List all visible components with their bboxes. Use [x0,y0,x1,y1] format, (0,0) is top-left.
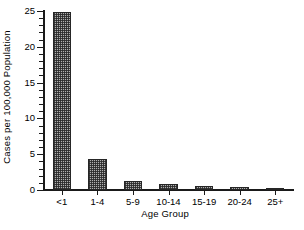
x-tick [133,191,134,195]
y-tick-label: 0 [13,185,35,194]
y-tick-label: 10 [13,113,35,122]
x-tick [275,191,276,195]
y-tick-label: 20 [13,42,35,51]
y-tick-label: 25 [13,6,35,15]
bar [88,159,106,191]
x-tick [97,191,98,195]
x-axis-title: Age Group [40,208,290,219]
x-tick [204,191,205,195]
bars-container [44,11,293,190]
bar [195,186,213,190]
bar [53,12,71,190]
y-axis-title: Cases per 100,000 Population [0,2,14,192]
bar [266,188,284,190]
y-tick-major [37,47,44,48]
y-tick-label: 15 [13,78,35,87]
bar [124,181,142,190]
x-tick-label: 25+ [250,196,300,207]
y-tick-label: 5 [13,149,35,158]
y-tick-major [37,11,44,12]
x-tick [169,191,170,195]
y-tick-major [37,83,44,84]
x-tick [240,191,241,195]
x-tick [62,191,63,195]
y-tick-major [37,118,44,119]
bar [230,187,248,190]
y-tick-major [37,154,44,155]
bar-chart: Cases per 100,000 Population 0510152025 … [0,0,304,230]
bar [159,184,177,190]
y-tick-major [37,190,44,191]
